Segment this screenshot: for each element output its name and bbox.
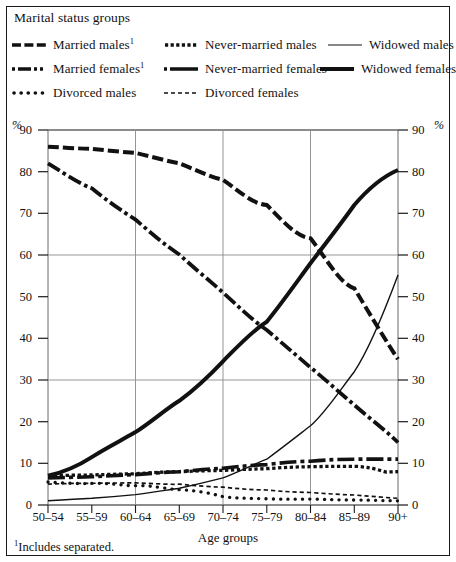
y-tick-label-right: 80 [412, 165, 436, 180]
chart-area: % % [0, 112, 456, 522]
figure-footnote: 1Includes separated. [14, 540, 114, 555]
y-tick-label-right: 50 [412, 290, 436, 305]
y-tick-label-right: 70 [412, 206, 436, 221]
line-style-dashed-thin-icon [164, 87, 198, 99]
legend-label: Never-married females [205, 62, 327, 76]
line-style-solid-thin-icon [328, 39, 362, 51]
legend-item-married-males: Married males1 [12, 33, 134, 57]
frame-border-top [6, 6, 450, 7]
legend-label: Divorced males [53, 86, 136, 100]
legend-label: Never-married males [205, 38, 317, 52]
line-style-dash-dot-thick-icon [12, 63, 46, 75]
y-tick-label-right: 40 [412, 331, 436, 346]
y-tick-label-left: 50 [10, 290, 32, 305]
x-tick-label: 90+ [370, 510, 426, 525]
legend-label: Married females1 [53, 62, 144, 76]
chart-legend: Marital status groups Married males1 Nev… [12, 10, 452, 105]
y-tick-label-right: 60 [412, 248, 436, 263]
legend-row: Divorced males Divorced females [12, 81, 452, 105]
legend-row: Married males1 Never-married males Widow… [12, 33, 452, 57]
line-style-dot-dash-long-icon [164, 63, 198, 75]
legend-label: Divorced females [205, 86, 299, 100]
y-tick-label-left: 20 [10, 415, 32, 430]
y-tick-label-right: 30 [412, 373, 436, 388]
footnote-text: Includes separated. [18, 540, 114, 554]
y-tick-label-left: 40 [10, 331, 32, 346]
plot-svg [0, 112, 456, 522]
legend-item-never-married-males: Never-married males [164, 33, 317, 57]
legend-label: Married males1 [53, 38, 134, 52]
legend-title: Marital status groups [14, 10, 452, 26]
y-tick-label-left: 30 [10, 373, 32, 388]
line-style-dotted-thick-icon [164, 39, 198, 51]
y-tick-label-left: 80 [10, 165, 32, 180]
y-tick-label-left: 90 [10, 123, 32, 138]
legend-item-married-females: Married females1 [12, 57, 144, 81]
y-tick-label-left: 60 [10, 248, 32, 263]
footnote-marker: 1 [130, 36, 134, 46]
line-style-solid-thick-icon [320, 63, 354, 75]
legend-item-divorced-males: Divorced males [12, 81, 136, 105]
legend-item-widowed-females: Widowed females [320, 57, 456, 81]
y-tick-label-right: 90 [412, 123, 436, 138]
legend-row: Married females1 Never-married females W… [12, 57, 452, 81]
frame-border-bottom [6, 555, 450, 556]
y-tick-label-left: 10 [10, 456, 32, 471]
line-style-dashed-thick-icon [12, 39, 46, 51]
y-axis-ticks-left [38, 130, 48, 505]
legend-item-never-married-females: Never-married females [164, 57, 327, 81]
y-tick-label-left: 70 [10, 206, 32, 221]
legend-item-divorced-females: Divorced females [164, 81, 299, 105]
legend-label: Widowed females [361, 62, 456, 76]
y-tick-label-right: 20 [412, 415, 436, 430]
footnote-marker: 1 [140, 60, 144, 70]
figure-container: Marital status groups Married males1 Nev… [0, 0, 456, 562]
line-style-dotted-round-icon [12, 87, 46, 99]
y-axis-ticks-right [398, 130, 408, 505]
y-tick-label-right: 10 [412, 456, 436, 471]
legend-label: Widowed males [369, 38, 454, 52]
legend-item-widowed-males: Widowed males [328, 33, 454, 57]
